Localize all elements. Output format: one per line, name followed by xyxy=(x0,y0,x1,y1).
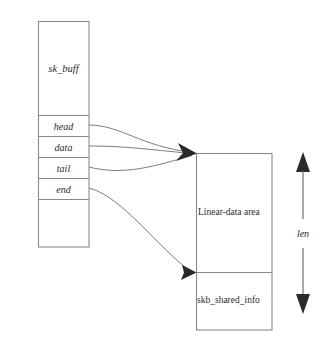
connector-tail xyxy=(89,156,192,171)
skb-shared-info-label: skb_shared_info xyxy=(197,295,260,305)
skbuff-struct-label: sk_buff xyxy=(48,63,80,74)
diagram-canvas: sk_buff head data tail end Linear-data a… xyxy=(0,0,326,342)
len-arrowhead-up xyxy=(296,152,310,172)
connector-end xyxy=(89,188,191,272)
skbuff-diagram: sk_buff head data tail end Linear-data a… xyxy=(0,0,326,342)
field-label-end: end xyxy=(56,184,71,195)
arrowhead-shared-info xyxy=(181,265,197,280)
field-label-head: head xyxy=(54,121,74,132)
len-label: len xyxy=(297,228,309,239)
linear-data-area-label: Linear-data area xyxy=(198,207,261,217)
skbuff-box-group xyxy=(39,22,90,248)
pointer-connectors xyxy=(89,125,197,280)
field-label-tail: tail xyxy=(57,163,71,174)
len-arrowhead-down xyxy=(296,294,310,314)
field-label-data: data xyxy=(55,142,73,153)
skbuff-outer-box xyxy=(39,22,90,248)
